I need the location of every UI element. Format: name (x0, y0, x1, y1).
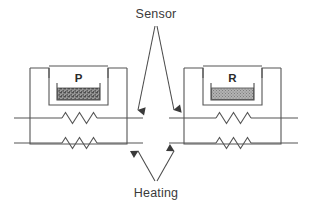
sensor-callout-label: Sensor (136, 7, 177, 21)
right-cell-label: R (228, 72, 237, 84)
left-cell-label: P (75, 72, 83, 84)
heating-callout-label: Heating (134, 186, 179, 200)
diagram-background (0, 0, 312, 206)
dsc-schematic: P R (0, 0, 312, 206)
diagram-canvas: P R (0, 0, 312, 206)
reference-material-fill (212, 88, 254, 99)
sample-material-fill (58, 88, 100, 99)
